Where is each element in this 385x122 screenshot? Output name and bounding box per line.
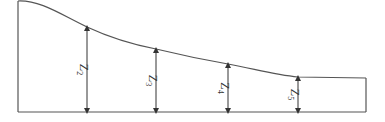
depth-label-z5: Z5 [286, 89, 302, 100]
depth-marker-z3: Z3 [144, 50, 160, 111]
water-surface-curve [18, 1, 366, 78]
depth-label-z3: Z3 [144, 75, 160, 86]
profile-diagram: Z2Z3Z4Z5 [0, 0, 385, 122]
depth-marker-z4: Z4 [216, 65, 232, 111]
diagram-canvas: Z2Z3Z4Z5 [0, 0, 385, 122]
depth-markers: Z2Z3Z4Z5 [75, 28, 302, 111]
depth-label-z4: Z4 [216, 82, 232, 93]
channel-outline [18, 1, 366, 112]
depth-marker-z2: Z2 [75, 28, 91, 111]
depth-label-z2: Z2 [75, 64, 91, 75]
depth-marker-z5: Z5 [286, 78, 302, 111]
